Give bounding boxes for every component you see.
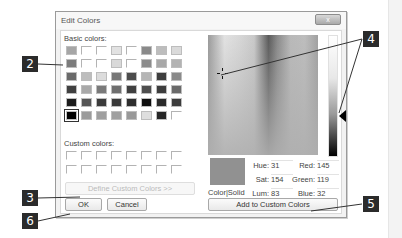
custom-color-swatch[interactable] [126, 151, 137, 160]
basic-color-swatch[interactable] [126, 59, 137, 68]
color-spectrum[interactable] [208, 35, 318, 155]
luminance-slider[interactable] [328, 35, 338, 157]
callout-5: 5 [363, 196, 379, 212]
basic-color-swatch[interactable] [141, 98, 152, 107]
color-solid-label: Color|Solid [208, 188, 245, 197]
basic-color-swatch[interactable] [156, 98, 167, 107]
basic-color-swatch[interactable] [171, 59, 182, 68]
callout-6: 6 [22, 213, 38, 229]
basic-color-swatch[interactable] [141, 85, 152, 94]
crosshair-icon[interactable] [217, 68, 228, 79]
blue-label: Blue: [289, 189, 315, 198]
ok-button[interactable]: OK [65, 198, 102, 211]
basic-color-swatch[interactable] [81, 72, 92, 81]
hue-label: Hue: [251, 161, 269, 170]
custom-color-swatch[interactable] [111, 151, 122, 160]
basic-color-swatch[interactable] [141, 59, 152, 68]
dialog-title: Edit Colors [61, 16, 100, 25]
custom-color-swatch[interactable] [141, 151, 152, 160]
basic-color-swatch[interactable] [111, 72, 122, 81]
basic-color-swatch[interactable] [141, 72, 152, 81]
basic-color-swatch[interactable] [156, 46, 167, 55]
basic-color-swatch[interactable] [96, 46, 107, 55]
custom-color-swatch[interactable] [66, 151, 77, 160]
basic-color-swatch[interactable] [111, 98, 122, 107]
basic-color-swatch[interactable] [171, 72, 182, 81]
callout-3: 3 [22, 190, 38, 206]
basic-color-swatch[interactable] [81, 111, 92, 120]
basic-color-swatch[interactable] [126, 111, 137, 120]
basic-color-swatch[interactable] [156, 59, 167, 68]
basic-color-swatch[interactable] [156, 85, 167, 94]
basic-color-swatch[interactable] [96, 85, 107, 94]
basic-color-swatch[interactable] [66, 111, 77, 120]
basic-color-swatch[interactable] [141, 46, 152, 55]
basic-color-swatch[interactable] [111, 59, 122, 68]
basic-color-swatch[interactable] [156, 111, 167, 120]
basic-color-swatch[interactable] [126, 46, 137, 55]
basic-color-swatch[interactable] [66, 98, 77, 107]
basic-color-swatch[interactable] [66, 72, 77, 81]
basic-color-swatch[interactable] [66, 85, 77, 94]
define-custom-colors-button[interactable]: Define Custom Colors >> [65, 182, 195, 195]
basic-color-swatch[interactable] [111, 111, 122, 120]
luminance-arrow-icon[interactable] [339, 110, 346, 122]
basic-color-swatch[interactable] [96, 59, 107, 68]
custom-color-swatch[interactable] [96, 165, 107, 174]
custom-color-swatch[interactable] [81, 151, 92, 160]
close-button[interactable]: x [315, 14, 341, 25]
dialog-body: Basic colors: Custom colors: Define Cust… [60, 30, 342, 214]
basic-color-swatch[interactable] [111, 85, 122, 94]
basic-color-swatch[interactable] [171, 46, 182, 55]
basic-color-swatch[interactable] [66, 46, 77, 55]
add-to-custom-colors-button[interactable]: Add to Custom Colors [208, 198, 338, 211]
basic-color-swatch[interactable] [126, 72, 137, 81]
basic-color-swatch[interactable] [96, 72, 107, 81]
custom-color-swatch[interactable] [141, 165, 152, 174]
lum-label: Lum: [249, 189, 269, 198]
basic-color-swatch[interactable] [81, 46, 92, 55]
edit-colors-dialog: Edit Colors x Basic colors: Custom color… [55, 11, 347, 218]
sat-label: Sat: [251, 175, 269, 184]
red-field[interactable]: 145 [317, 160, 339, 171]
basic-color-swatch[interactable] [111, 46, 122, 55]
basic-color-swatch[interactable] [81, 59, 92, 68]
callout-4: 4 [363, 31, 379, 47]
custom-color-swatch[interactable] [96, 151, 107, 160]
basic-color-swatch[interactable] [66, 59, 77, 68]
red-label: Red: [289, 161, 315, 170]
custom-colors-label: Custom colors: [64, 139, 114, 148]
cancel-button[interactable]: Cancel [107, 198, 147, 211]
basic-color-swatch[interactable] [126, 98, 137, 107]
basic-color-swatch[interactable] [171, 85, 182, 94]
custom-colors-grid [66, 151, 182, 174]
basic-color-swatch[interactable] [81, 98, 92, 107]
basic-color-swatch[interactable] [156, 72, 167, 81]
green-label: Green: [287, 175, 315, 184]
color-solid-preview [210, 158, 245, 185]
basic-color-swatch[interactable] [96, 111, 107, 120]
page-margin-stripe [388, 0, 402, 238]
custom-color-swatch[interactable] [66, 165, 77, 174]
custom-color-swatch[interactable] [171, 165, 182, 174]
basic-color-swatch[interactable] [96, 98, 107, 107]
basic-color-swatch[interactable] [171, 111, 182, 120]
basic-colors-label: Basic colors: [64, 34, 107, 43]
basic-color-swatch[interactable] [141, 111, 152, 120]
custom-color-swatch[interactable] [156, 151, 167, 160]
custom-color-swatch[interactable] [111, 165, 122, 174]
green-field[interactable]: 119 [317, 174, 339, 185]
custom-color-swatch[interactable] [156, 165, 167, 174]
custom-color-swatch[interactable] [171, 151, 182, 160]
callout-2: 2 [22, 56, 38, 72]
title-bar: Edit Colors x [56, 12, 346, 29]
basic-color-swatch[interactable] [126, 85, 137, 94]
basic-color-swatch[interactable] [171, 98, 182, 107]
basic-color-swatch[interactable] [81, 85, 92, 94]
close-icon: x [326, 16, 330, 23]
custom-color-swatch[interactable] [81, 165, 92, 174]
basic-colors-grid [66, 46, 182, 120]
custom-color-swatch[interactable] [126, 165, 137, 174]
